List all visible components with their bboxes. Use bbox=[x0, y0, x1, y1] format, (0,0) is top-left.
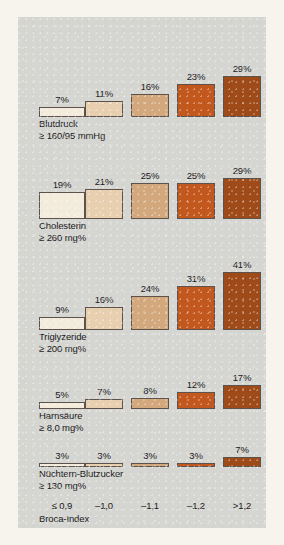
x-axis-tick: >1,2 bbox=[223, 500, 261, 511]
bar-value-label: 7% bbox=[235, 444, 249, 455]
x-axis-tick: –1,1 bbox=[131, 500, 169, 511]
bar-slot bbox=[39, 463, 85, 467]
x-axis-tick: –1,0 bbox=[85, 500, 123, 511]
bar-slot bbox=[177, 463, 215, 467]
group-label-line2: ≥ 130 mg% bbox=[39, 480, 123, 492]
chart-panel: 7%11%16%23%29%Blutdruck≥ 160/95 mmHg19%2… bbox=[18, 17, 266, 528]
bar-value-label: 3% bbox=[143, 450, 157, 461]
x-axis-tick: –1,2 bbox=[177, 500, 215, 511]
bar-group: 3%3%3%3%7% bbox=[18, 17, 266, 467]
bar-slot bbox=[85, 463, 123, 467]
bar-value-label: 3% bbox=[189, 450, 203, 461]
x-axis-title: Broca-Index bbox=[39, 513, 89, 524]
bar[interactable] bbox=[177, 463, 215, 467]
group-label: Nüchtern-Blutzucker≥ 130 mg% bbox=[39, 468, 123, 491]
bar-value-label: 3% bbox=[97, 450, 111, 461]
x-axis-tick: ≤ 0,9 bbox=[39, 500, 85, 511]
bar-value-label: 3% bbox=[55, 450, 69, 461]
bar-slot bbox=[223, 457, 261, 467]
bar[interactable] bbox=[131, 463, 169, 467]
group-label-line1: Nüchtern-Blutzucker bbox=[39, 468, 123, 479]
bar[interactable] bbox=[85, 463, 123, 467]
bar[interactable] bbox=[39, 463, 85, 467]
x-axis: ≤ 0,9–1,0–1,1–1,2>1,2 Broca-Index bbox=[18, 500, 266, 528]
bar[interactable] bbox=[223, 457, 261, 467]
bar-slot bbox=[131, 463, 169, 467]
